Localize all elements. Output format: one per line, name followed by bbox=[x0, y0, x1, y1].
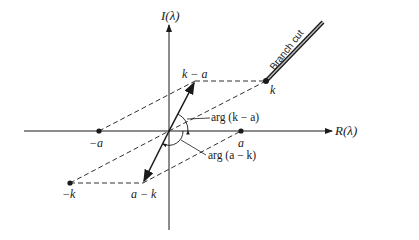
leader-arg-a-minus-k bbox=[181, 140, 206, 155]
point-neg-k bbox=[67, 180, 72, 185]
point-neg-a bbox=[96, 128, 101, 133]
label-arg-k-minus-a: arg (k − a) bbox=[211, 112, 259, 124]
imaginary-axis-label-text: I(λ) bbox=[161, 8, 180, 23]
imaginary-axis-label: I(λ) bbox=[161, 9, 180, 22]
complex-plane-diagram bbox=[0, 0, 419, 240]
leader-arg-k-minus-a bbox=[187, 118, 210, 119]
label-k-minus-a: k − a bbox=[182, 68, 207, 80]
point-a bbox=[238, 128, 243, 133]
point-k bbox=[263, 78, 269, 84]
label-k: k bbox=[270, 84, 275, 96]
vector-k-minus-a bbox=[169, 83, 194, 131]
real-axis-label-text: R(λ) bbox=[335, 123, 357, 138]
label-neg-k: −k bbox=[62, 188, 75, 200]
vector-a-minus-k bbox=[144, 131, 169, 181]
real-axis-label: R(λ) bbox=[335, 124, 357, 137]
label-a: a bbox=[238, 137, 244, 149]
label-neg-a: −a bbox=[89, 137, 103, 149]
label-a-minus-k: a − k bbox=[131, 188, 156, 200]
label-arg-a-minus-k: arg (a − k) bbox=[208, 150, 256, 162]
arc-arg-k-minus-a bbox=[178, 114, 188, 131]
